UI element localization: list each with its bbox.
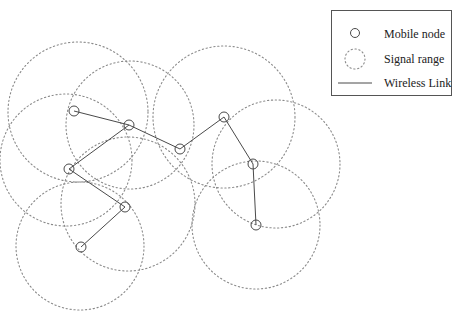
wireless-link: [253, 164, 256, 225]
mobile-node: [124, 120, 134, 130]
wireless-link: [81, 207, 125, 247]
signal-range-circle: [0, 94, 132, 226]
wireless-link: [74, 111, 129, 125]
legend-label: Wireless Link: [384, 76, 451, 91]
mobile-node: [120, 202, 130, 212]
legend-label: Mobile node: [384, 27, 445, 42]
legend-item-wireless-link: Wireless Link: [332, 73, 451, 93]
mobile-node: [69, 106, 79, 116]
wireless-link: [69, 125, 129, 169]
wireless-link-icon: [338, 73, 372, 93]
signal-range-icon: [338, 47, 372, 71]
mobile-node: [248, 159, 258, 169]
mobile-node: [251, 220, 261, 230]
mobile-node: [76, 242, 86, 252]
legend: Mobile node Signal range Wireless Link: [331, 10, 452, 96]
legend-item-signal-range: Signal range: [332, 49, 451, 69]
legend-item-mobile-node: Mobile node: [332, 24, 451, 44]
wireless-link: [180, 117, 224, 149]
mobile-node: [64, 164, 74, 174]
mobile-node: [219, 112, 229, 122]
signal-ranges: [0, 42, 340, 310]
legend-label: Signal range: [384, 52, 444, 67]
mobile-nodes: [64, 106, 261, 252]
wireless-link: [224, 117, 253, 164]
mobile-node-icon: [338, 24, 372, 44]
mobile-node: [175, 144, 185, 154]
